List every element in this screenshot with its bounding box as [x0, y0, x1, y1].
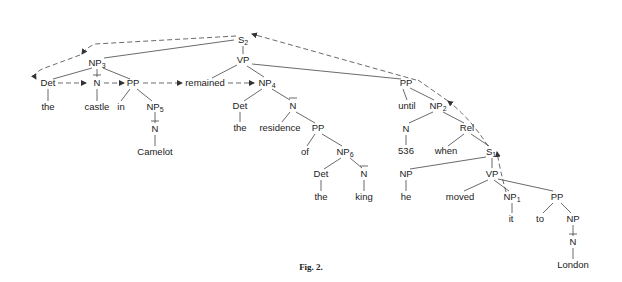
word-it: it — [509, 213, 514, 224]
node-N: N — [570, 236, 577, 247]
node-PP: PP — [127, 77, 140, 88]
node-N: N — [94, 77, 101, 88]
node-N: N — [152, 123, 159, 134]
node-NP3: NP3 — [88, 57, 105, 69]
parse-tree-diagram: S2 VP NP3 Det the N castle PP in NP5 N C… — [0, 0, 622, 282]
node-Det: Det — [41, 77, 56, 88]
node-Det: Det — [314, 168, 329, 179]
node-N: N — [403, 123, 410, 134]
node-VP: VP — [486, 168, 499, 179]
word-camelot: Camelot — [137, 146, 173, 157]
word-the: the — [233, 122, 246, 133]
tree-edges — [48, 40, 577, 259]
node-PP: PP — [551, 191, 564, 202]
word-the: the — [41, 101, 54, 112]
node-VP-main: VP — [237, 54, 250, 65]
word-of: of — [301, 146, 309, 157]
node-S2: S2 — [238, 34, 248, 46]
word-to: to — [536, 213, 544, 224]
node-PP: PP — [312, 122, 325, 133]
node-NP: NP — [399, 168, 412, 179]
node-N: N — [290, 100, 297, 111]
word-in: in — [117, 101, 124, 112]
word-castle: castle — [85, 101, 110, 112]
word-remained: remained — [185, 77, 225, 88]
node-Rel: Rel — [460, 122, 474, 133]
word-the: the — [314, 191, 327, 202]
node-NP5: NP5 — [146, 101, 163, 113]
figure-caption: Fig. 2. — [0, 262, 622, 272]
node-NP: NP — [566, 213, 579, 224]
word-he: he — [401, 191, 412, 202]
word-king: king — [355, 191, 372, 202]
node-NP2: NP2 — [429, 100, 446, 112]
node-NP6: NP6 — [336, 146, 353, 158]
word-moved: moved — [446, 191, 475, 202]
node-PP: PP — [400, 77, 413, 88]
node-S1: S1 — [486, 146, 496, 158]
word-until: until — [398, 100, 415, 111]
node-NP4: NP4 — [258, 77, 275, 89]
word-residence: residence — [259, 122, 300, 133]
tree-nodes: S2 VP NP3 Det the N castle PP in NP5 N C… — [41, 34, 589, 270]
node-NP1: NP1 — [503, 191, 520, 203]
word-536: 536 — [398, 145, 414, 156]
node-Det: Det — [233, 100, 248, 111]
node-N: N — [361, 168, 368, 179]
word-when: when — [434, 145, 458, 156]
